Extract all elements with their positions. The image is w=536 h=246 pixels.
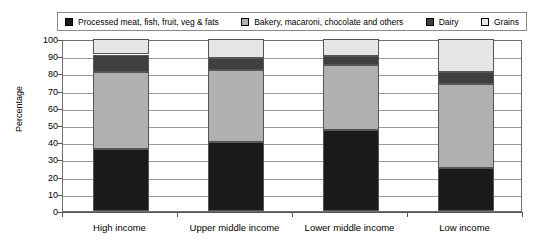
- legend-swatch-bakery: [241, 18, 249, 26]
- y-axis-tick-label: 60: [32, 104, 58, 113]
- x-axis-tick-mark: [62, 212, 63, 217]
- y-axis-tick-label: 10: [32, 190, 58, 199]
- x-axis-tick-label: Low income: [439, 222, 490, 233]
- stacked-bar[interactable]: [323, 41, 379, 211]
- y-axis-tick-mark: [57, 143, 62, 144]
- y-axis-tick-labels: 0102030405060708090100: [28, 40, 58, 212]
- bar-segment[interactable]: [323, 39, 379, 56]
- bar-segment[interactable]: [208, 142, 264, 211]
- stacked-bar-chart: Processed meat, fish, fruit, veg & fats …: [0, 0, 536, 246]
- y-axis-title: Percentage: [14, 69, 24, 149]
- legend-item-dairy: Dairy: [426, 17, 459, 27]
- bar-segment[interactable]: [208, 39, 264, 58]
- bar-group: [323, 41, 379, 211]
- y-axis-tick-label: 0: [32, 208, 58, 217]
- legend-item-bakery: Bakery, macaroni, chocolate and others: [241, 17, 403, 27]
- legend-item-grains: Grains: [481, 17, 519, 27]
- y-axis-tick-label: 50: [32, 122, 58, 131]
- x-axis-tick-label: High income: [93, 222, 146, 233]
- bar-segment[interactable]: [93, 149, 149, 211]
- legend-label-bakery: Bakery, macaroni, chocolate and others: [254, 17, 403, 27]
- bar-segment[interactable]: [438, 72, 494, 84]
- x-axis-tick-mark: [522, 212, 523, 217]
- bar-segment[interactable]: [323, 56, 379, 65]
- bar-segment[interactable]: [93, 39, 149, 54]
- legend-swatch-processed-meat: [65, 18, 73, 26]
- y-axis-tick-label: 30: [32, 156, 58, 165]
- bar-group: [438, 41, 494, 211]
- y-axis-tick-label: 70: [32, 87, 58, 96]
- legend-item-processed-meat: Processed meat, fish, fruit, veg & fats: [65, 17, 219, 27]
- stacked-bar[interactable]: [208, 41, 264, 211]
- y-axis-tick-mark: [57, 40, 62, 41]
- legend-label-dairy: Dairy: [439, 17, 459, 27]
- bar-segment[interactable]: [93, 55, 149, 72]
- bar-segment[interactable]: [323, 65, 379, 130]
- stacked-bar[interactable]: [93, 41, 149, 211]
- bar-segment[interactable]: [208, 58, 264, 70]
- stacked-bar[interactable]: [438, 41, 494, 211]
- bar-group: [208, 41, 264, 211]
- y-axis-tick-label: 100: [32, 36, 58, 45]
- y-axis-tick-label: 80: [32, 70, 58, 79]
- y-axis-tick-mark: [57, 57, 62, 58]
- bar-segment[interactable]: [438, 84, 494, 168]
- bar-segment[interactable]: [438, 39, 494, 72]
- legend-swatch-grains: [481, 18, 489, 26]
- x-axis-tick-mark: [292, 212, 293, 217]
- x-axis-tick-label: Lower middle income: [305, 222, 395, 233]
- y-axis-tick-mark: [57, 92, 62, 93]
- plot-area: [62, 40, 522, 212]
- y-axis-tick-mark: [57, 195, 62, 196]
- y-axis-tick-label: 90: [32, 53, 58, 62]
- bar-segment[interactable]: [208, 70, 264, 142]
- legend-label-processed-meat: Processed meat, fish, fruit, veg & fats: [78, 17, 219, 27]
- bar-group: [93, 41, 149, 211]
- legend-label-grains: Grains: [494, 17, 519, 27]
- bar-segment[interactable]: [93, 72, 149, 149]
- y-axis-tick-mark: [57, 74, 62, 75]
- chart-legend: Processed meat, fish, fruit, veg & fats …: [57, 12, 527, 31]
- x-axis-tick-label: Upper middle income: [190, 222, 280, 233]
- x-axis-tick-mark: [177, 212, 178, 217]
- y-axis-tick-label: 20: [32, 173, 58, 182]
- x-axis-tick-mark: [407, 212, 408, 217]
- bar-segment[interactable]: [438, 168, 494, 211]
- y-axis-tick-label: 40: [32, 139, 58, 148]
- legend-swatch-dairy: [426, 18, 434, 26]
- y-axis-tick-mark: [57, 126, 62, 127]
- y-axis-tick-mark: [57, 178, 62, 179]
- y-axis-tick-mark: [57, 109, 62, 110]
- y-axis-tick-mark: [57, 160, 62, 161]
- bar-segment[interactable]: [323, 130, 379, 211]
